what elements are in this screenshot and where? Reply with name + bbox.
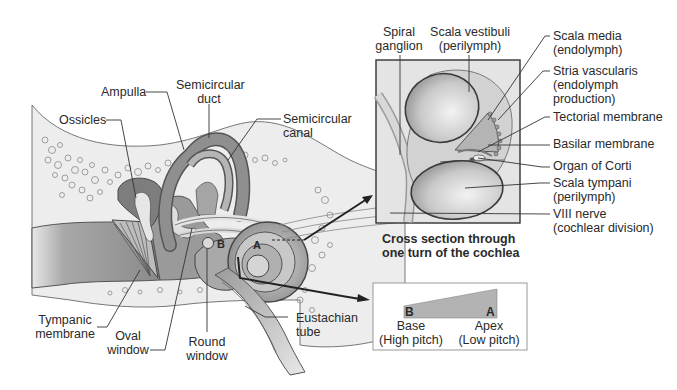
label-tectorial-membrane: Tectorial membrane — [553, 110, 663, 124]
pitch-marker-a: A — [486, 305, 495, 319]
label-scala-tympani-line1: Scala tympani — [553, 176, 632, 190]
label-scala-vestibuli-line1: Scala vestibuli — [428, 25, 512, 39]
label-apex-pitch: (Low pitch) — [456, 333, 522, 347]
label-semicircular-duct: Semicircular duct — [176, 78, 242, 106]
label-semicircular-duct-line1: Semicircular — [176, 78, 242, 92]
label-stria-vascularis-line3: production) — [553, 92, 638, 106]
label-spiral-ganglion: Spiral ganglion — [375, 25, 423, 53]
label-tympanic-membrane-line2: membrane — [34, 327, 96, 341]
label-stria-vascularis-line1: Stria vascularis — [553, 64, 638, 78]
label-ossicles: Ossicles — [59, 113, 106, 127]
label-basilar-membrane: Basilar membrane — [553, 137, 654, 151]
label-round-window-line2: window — [183, 349, 231, 363]
label-apex: Apex (Low pitch) — [456, 319, 522, 347]
label-viii-nerve: VIII nerve (cochlear division) — [553, 207, 654, 235]
label-base: Base (High pitch) — [377, 319, 445, 347]
label-scala-vestibuli: Scala vestibuli (perilymph) — [428, 25, 512, 53]
label-ampulla: Ampulla — [101, 85, 146, 99]
label-scala-media-line2: (endolymph) — [553, 43, 622, 57]
label-oval-window: Oval window — [105, 329, 151, 357]
label-scala-media-line1: Scala media — [553, 29, 622, 43]
label-eustachian-tube: Eustachian tube — [296, 311, 358, 339]
label-spiral-ganglion-line2: ganglion — [375, 39, 423, 53]
label-semicircular-canal-line1: Semicircular — [283, 112, 352, 126]
label-oval-window-line1: Oval — [105, 329, 151, 343]
label-scala-tympani: Scala tympani (perilymph) — [553, 176, 632, 204]
label-round-window: Round window — [183, 335, 231, 363]
caption-line1: Cross section through — [382, 232, 520, 246]
label-organ-of-corti: Organ of Corti — [553, 159, 632, 173]
label-stria-vascularis-line2: (endolymph — [553, 78, 638, 92]
label-stria-vascularis: Stria vascularis (endolymph production) — [553, 64, 638, 106]
label-spiral-ganglion-line1: Spiral — [375, 25, 423, 39]
label-semicircular-canal-line2: canal — [283, 126, 352, 140]
label-round-window-line1: Round — [183, 335, 231, 349]
label-base-pitch: (High pitch) — [377, 333, 445, 347]
label-scala-tympani-line2: (perilymph) — [553, 190, 632, 204]
label-semicircular-duct-line2: duct — [176, 92, 242, 106]
caption-line2: one turn of the cochlea — [382, 246, 520, 260]
round-window — [203, 238, 214, 249]
label-viii-nerve-line2: (cochlear division) — [553, 221, 654, 235]
cross-section-caption: Cross section through one turn of the co… — [382, 232, 520, 260]
inner-ear-diagram: Ampulla Semicircular duct Semicircular c… — [0, 0, 677, 390]
label-semicircular-canal: Semicircular canal — [283, 112, 352, 140]
label-apex-name: Apex — [456, 319, 522, 333]
label-tympanic-membrane-line1: Tympanic — [34, 313, 96, 327]
label-scala-vestibuli-line2: (perilymph) — [428, 39, 512, 53]
label-base-name: Base — [377, 319, 445, 333]
label-eustachian-tube-line1: Eustachian — [296, 311, 358, 325]
label-tympanic-membrane: Tympanic membrane — [34, 313, 96, 341]
pitch-marker-b: B — [405, 305, 414, 319]
label-viii-nerve-line1: VIII nerve — [553, 207, 654, 221]
label-eustachian-tube-line2: tube — [296, 325, 358, 339]
marker-a-cochlea: A — [253, 238, 261, 252]
label-oval-window-line2: window — [105, 343, 151, 357]
marker-b-cochlea: B — [217, 237, 225, 251]
label-scala-media: Scala media (endolymph) — [553, 29, 622, 57]
